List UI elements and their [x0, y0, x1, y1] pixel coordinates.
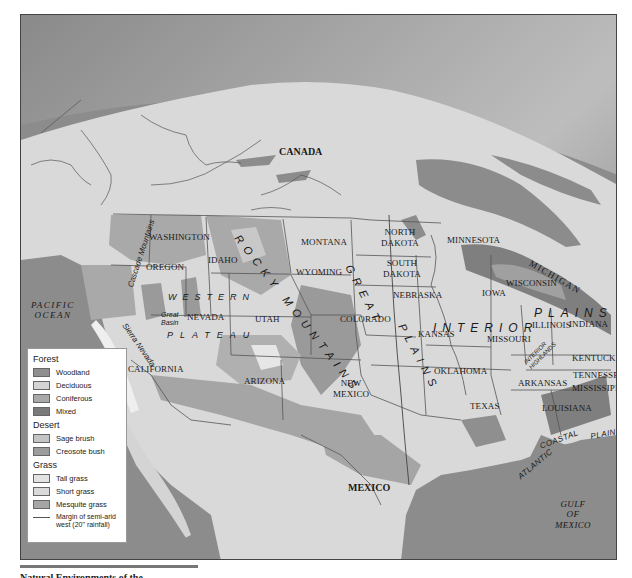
swatch-tall-grass — [33, 474, 50, 483]
label-canada: CANADA — [279, 147, 322, 157]
swatch-mixed — [33, 407, 50, 416]
label-wisconsin: WISCONSIN — [506, 279, 557, 288]
swatch-mesquite-grass — [33, 500, 50, 509]
label-wyoming: WYOMING — [296, 268, 342, 277]
label-western: WESTERN — [168, 293, 255, 302]
legend-item-short-grass: Short grass — [33, 485, 121, 497]
label-gulf-of-mexico: GULF OF MEXICO — [555, 499, 591, 530]
legend-item-tall-grass: Tall grass — [33, 472, 121, 484]
label-missouri: MISSOURI — [487, 335, 531, 344]
label-louisiana: LOUISIANA — [542, 404, 592, 413]
label-texas: TEXAS — [470, 402, 500, 411]
label-interior-plains: PLAINS — [534, 307, 613, 319]
caption-rule — [20, 565, 198, 568]
legend-item-deciduous: Deciduous — [33, 379, 121, 391]
label-oregon: OREGON — [146, 263, 184, 272]
label-interior: INTERIOR — [433, 322, 538, 334]
label-mississippi: MISSISSIPPI — [572, 384, 617, 393]
label-mexico: MEXICO — [348, 483, 390, 493]
legend-item-semi-arid-margin: Margin of semi-arid west (20" rainfall) — [33, 513, 121, 530]
swatch-coniferous — [33, 394, 50, 403]
legend-group-desert: Desert — [33, 420, 121, 430]
label-minnesota: MINNESOTA — [447, 236, 500, 245]
label-arkansas: ARKANSAS — [518, 379, 567, 388]
map-legend: Forest Woodland Deciduous Coniferous Mix… — [27, 348, 127, 543]
label-nevada: NEVADA — [187, 313, 224, 322]
legend-item-mesquite-grass: Mesquite grass — [33, 498, 121, 510]
label-utah: UTAH — [255, 315, 280, 324]
label-indiana: INDIANA — [569, 320, 608, 329]
legend-item-sage-brush: Sage brush — [33, 432, 121, 444]
swatch-short-grass — [33, 487, 50, 496]
label-montana: MONTANA — [301, 238, 347, 247]
legend-item-woodland: Woodland — [33, 366, 121, 378]
label-arizona: ARIZONA — [244, 377, 285, 386]
label-iowa: IOWA — [482, 289, 506, 298]
label-plateau: PLATEAU — [167, 331, 256, 340]
label-great-basin: GreatBasin — [161, 311, 179, 326]
label-kentucky: KENTUCKY — [572, 354, 617, 363]
label-california: CALIFORNIA — [128, 365, 184, 374]
legend-item-mixed: Mixed — [33, 405, 121, 417]
label-north-dakota: NORTHDAKOTA — [381, 227, 419, 249]
legend-group-forest: Forest — [33, 354, 121, 364]
label-idaho: IDAHO — [208, 256, 238, 265]
label-oklahoma: OKLAHOMA — [434, 367, 487, 376]
label-tennessee: TENNESSEE — [573, 371, 617, 380]
label-south-dakota: SOUTHDAKOTA — [383, 258, 421, 280]
label-nebraska: NEBRASKA — [393, 291, 442, 300]
label-pacific-ocean: PACIFIC OCEAN — [31, 300, 75, 321]
swatch-creosote-bush — [33, 447, 50, 456]
swatch-woodland — [33, 368, 50, 377]
margin-line-icon — [33, 517, 50, 518]
map-frame: CANADA MEXICO PACIFIC OCEAN GULF OF MEXI… — [20, 14, 617, 560]
label-washington: WASHINGTON — [149, 233, 210, 242]
legend-item-creosote-bush: Creosote bush — [33, 445, 121, 457]
figure-caption: Natural Environments of the — [20, 571, 143, 578]
swatch-sage-brush — [33, 434, 50, 443]
swatch-deciduous — [33, 381, 50, 390]
legend-item-coniferous: Coniferous — [33, 392, 121, 404]
legend-group-grass: Grass — [33, 460, 121, 470]
